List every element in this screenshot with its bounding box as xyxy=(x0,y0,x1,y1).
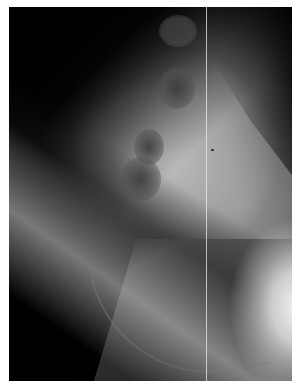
radiograph-image xyxy=(9,7,292,381)
lucency-middle-upper xyxy=(159,67,195,109)
lucency-upper xyxy=(159,15,197,47)
page xyxy=(0,0,300,387)
dark-speck-marker xyxy=(211,149,214,151)
vertical-artifact-line xyxy=(206,7,207,381)
lucency-lower xyxy=(121,157,161,201)
